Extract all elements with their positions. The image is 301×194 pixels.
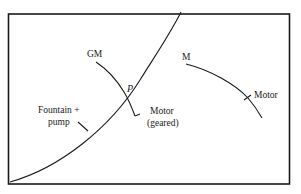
fountain-pump-curve (10, 12, 181, 182)
geared-motor-tick (135, 114, 140, 116)
plot-frame (9, 14, 290, 184)
fountain-pump-label-line1: Fountain + (38, 105, 80, 115)
gm-label: GM (87, 49, 103, 59)
motor-label: Motor (254, 90, 279, 100)
fountain-pump-label-line2: pump (48, 117, 70, 127)
fountain-pump-tick (78, 122, 88, 131)
diagram: Fountain + pump GM P Motor (geared) M Mo… (0, 0, 301, 194)
intersection-p-label: P (126, 83, 133, 94)
motor-geared-label-line2: (geared) (147, 118, 179, 129)
m-label: M (182, 52, 191, 62)
motor-curve (186, 64, 262, 118)
motor-geared-label-line1: Motor (150, 106, 175, 116)
